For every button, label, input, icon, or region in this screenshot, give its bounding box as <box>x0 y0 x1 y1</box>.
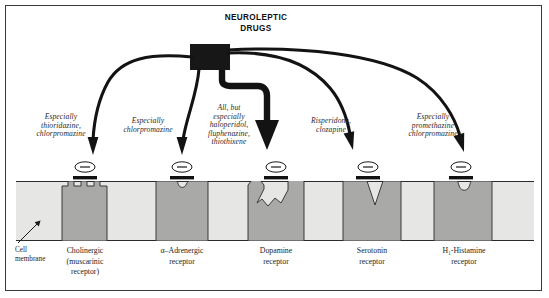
drug-label-histamine: Especially promethazine chlorpromazine <box>392 113 474 139</box>
drug-label-serotonin: Risperidone, clozapine <box>295 117 367 134</box>
neuroleptic-drugs-box <box>190 44 230 70</box>
receptor-label-cholinergic: Cholinergic (muscarinic receptor) <box>51 246 119 278</box>
receptor-label-histamine: H₁-Histamine receptor <box>428 246 500 267</box>
arrow-to-cholinergic <box>88 56 192 155</box>
receptor-cholinergic <box>62 181 107 241</box>
receptor-label-adrenergic: α–Adrenergic receptor <box>145 246 219 267</box>
figure-title: NEUROLEPTIC DRUGS <box>196 12 316 34</box>
drug-symbol-histamine <box>449 162 473 180</box>
receptor-label-serotonin: Serotonin receptor <box>340 246 404 267</box>
drug-symbol-adrenergic <box>170 162 194 180</box>
arrow-to-adrenergic <box>177 69 199 155</box>
drug-label-cholinergic: Especially thioridazine, chlorpromazine <box>18 113 104 139</box>
drug-label-dopamine: All, but especially haloperidol, fluphen… <box>198 104 260 147</box>
drug-symbol-cholinergic <box>73 162 97 180</box>
drug-symbol-serotonin <box>356 162 380 180</box>
receptor-histamine <box>434 181 492 241</box>
drug-symbol-dopamine <box>264 162 288 180</box>
drug-label-adrenergic: Especially chlorpromazine <box>110 117 186 134</box>
receptor-label-dopamine: Dopamine receptor <box>244 246 308 267</box>
figure-root: NEUROLEPTIC DRUGS Especially thioridazin… <box>0 0 549 298</box>
receptor-adrenergic <box>156 181 208 241</box>
